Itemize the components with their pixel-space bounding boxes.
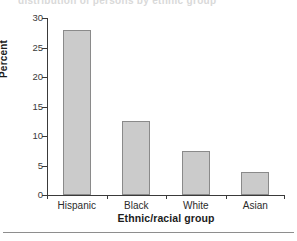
bar [241,172,269,195]
bar [182,151,210,195]
x-axis-tick-label: White [183,201,209,211]
x-axis-title: Ethnic/racial group [47,212,285,224]
x-axis-tick [284,195,285,199]
x-axis-tick-label: Asian [243,201,268,211]
bar [63,30,91,195]
y-axis-tick-label: 0 [38,190,43,200]
y-axis-tick-label: 30 [32,13,43,23]
bar [122,121,150,195]
footer-divider [3,232,294,233]
x-axis-tick [166,195,167,199]
y-axis-title: Percent [0,40,9,78]
x-axis-tick [226,195,227,199]
y-axis-tick-label: 15 [32,102,43,112]
x-axis-tick [47,195,48,199]
x-axis-tick-label: Hispanic [58,201,96,211]
y-axis-tick-label: 5 [38,161,43,171]
plot-area: 051015202530 HispanicBlackWhiteAsian [47,18,285,195]
y-axis-tick-label: 10 [32,131,43,141]
x-axis-tick [107,195,108,199]
y-axis-line [47,18,48,195]
x-axis-tick-label: Black [124,201,148,211]
y-axis-tick-label: 20 [32,72,43,82]
y-axis-tick-label: 25 [32,43,43,53]
bar-chart-figure: Percent 051015202530 HispanicBlackWhiteA… [0,0,297,241]
